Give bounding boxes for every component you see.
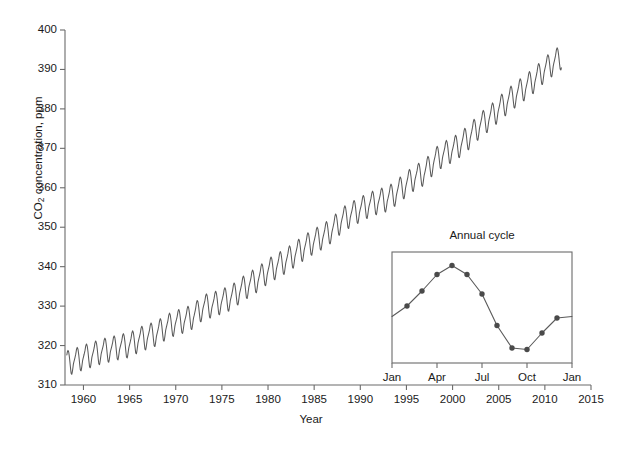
x-axis-tick-label: 1985 bbox=[289, 393, 339, 405]
x-axis-tick-label: 2005 bbox=[474, 393, 524, 405]
y-axis-tick-label: 400 bbox=[7, 23, 57, 35]
annual-cycle-data-point bbox=[419, 288, 424, 293]
y-axis-title: CO2 concentration, ppm bbox=[32, 78, 44, 238]
annual-cycle-data-point bbox=[434, 272, 439, 277]
y-axis-tick-label: 340 bbox=[7, 260, 57, 272]
x-axis-tick-label: 1990 bbox=[335, 393, 385, 405]
inset-x-axis-tick-label: Apr bbox=[415, 371, 459, 383]
y-axis-tick-label: 310 bbox=[7, 378, 57, 390]
x-axis-tick-label: 1960 bbox=[58, 393, 108, 405]
x-axis-tick-label: 2015 bbox=[566, 393, 616, 405]
y-axis-tick-label: 390 bbox=[7, 62, 57, 74]
y-axis-title-subscript: 2 bbox=[36, 198, 46, 203]
x-axis-tick-label: 1980 bbox=[243, 393, 293, 405]
y-axis-title-rest: concentration, ppm bbox=[32, 97, 44, 198]
annual-cycle-data-point bbox=[494, 323, 499, 328]
inset-x-axis-tick-label: Jul bbox=[460, 371, 504, 383]
annual-cycle-data-point bbox=[404, 303, 409, 308]
inset-frame bbox=[392, 252, 572, 363]
annual-cycle-data-point bbox=[449, 263, 454, 268]
x-axis-tick-label: 1970 bbox=[151, 393, 201, 405]
annual-cycle-data-point bbox=[464, 272, 469, 277]
inset-x-axis-tick-label: Oct bbox=[505, 371, 549, 383]
x-axis-tick-label: 2010 bbox=[520, 393, 570, 405]
inset-x-axis-tick-label: Jan bbox=[370, 371, 414, 383]
inset-title: Annual cycle bbox=[392, 229, 572, 241]
inset-x-axis-tick-label: Jan bbox=[550, 371, 594, 383]
annual-cycle-data-point bbox=[479, 291, 484, 296]
annual-cycle-data-point bbox=[554, 315, 559, 320]
x-axis-tick-label: 1995 bbox=[381, 393, 431, 405]
co2-concentration-figure: 310320330340350360370380390400 196019651… bbox=[0, 0, 622, 450]
annual-cycle-inset bbox=[392, 252, 572, 368]
x-axis-tick-label: 1975 bbox=[197, 393, 247, 405]
annual-cycle-data-point bbox=[524, 347, 529, 352]
x-axis-tick-label: 1965 bbox=[105, 393, 155, 405]
x-axis-title: Year bbox=[0, 413, 622, 425]
y-axis-tick-label: 320 bbox=[7, 339, 57, 351]
x-axis-tick-label: 2000 bbox=[428, 393, 478, 405]
y-axis-tick-label: 330 bbox=[7, 299, 57, 311]
y-axis-title-main: CO bbox=[32, 202, 44, 219]
annual-cycle-data-point bbox=[539, 330, 544, 335]
annual-cycle-data-point bbox=[509, 345, 514, 350]
